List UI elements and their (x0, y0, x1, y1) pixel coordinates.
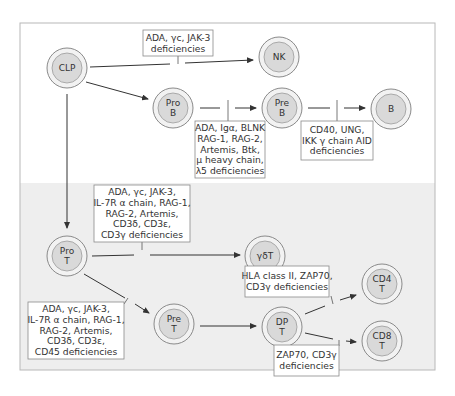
node-label: γδT (257, 251, 274, 261)
deficiency-text: λ5 deficiencies (196, 165, 265, 176)
node-pret: PreT (154, 304, 194, 344)
deficiency-text: deficiencies (151, 43, 206, 54)
block-label-prot-to-pret: ADA, γc, JAK-3,IL-7R α chain, RAG-1,RAG-… (27, 302, 124, 359)
deficiency-text: CD3γ deficiencies (101, 229, 183, 240)
deficiency-text: CD3δ, CD3ε, (113, 218, 171, 229)
deficiency-text: IL-7R α chain, RAG-1, (93, 197, 190, 208)
block-label-clp-to-nk: ADA, γc, JAK-3deficiencies (143, 30, 213, 56)
deficiency-text: IL-7R α chain, RAG-1, (27, 314, 124, 325)
node-label: T (278, 327, 285, 337)
node-label: T (378, 341, 385, 351)
node-clp: CLP (47, 48, 87, 88)
node-label: NK (273, 52, 287, 62)
deficiency-text: RAG-1, RAG-2, (197, 133, 263, 144)
node-prot: ProT (47, 236, 87, 276)
deficiency-text: RAG-2, Artemis, (106, 208, 179, 219)
deficiency-text: ADA, γc, JAK-3 (146, 32, 211, 43)
deficiency-text: deficiencies (279, 360, 334, 371)
node-nk: NK (259, 37, 299, 77)
node-label: CD4 (373, 274, 392, 284)
deficiency-text: CD3γ deficiencies (246, 281, 328, 292)
deficiency-text: deficiencies (310, 145, 365, 156)
node-label: B (170, 108, 176, 118)
node-label: Pro (166, 98, 181, 108)
deficiency-text: ADA, γc, JAK-3, (108, 186, 176, 197)
deficiency-text: HLA class II, ZAP70, (241, 270, 332, 281)
node-label: Pro (60, 246, 75, 256)
deficiency-text: CD40, UNG, (310, 124, 365, 135)
node-label: T (63, 256, 70, 266)
block-label-prot-to-gdt: ADA, γc, JAK-3,IL-7R α chain, RAG-1,RAG-… (93, 185, 190, 242)
deficiency-text: μ heavy chain, (196, 154, 264, 165)
deficiency-text: Artemis, Btk, (200, 144, 260, 155)
node-label: T (378, 284, 385, 294)
deficiency-text: ADA, Igα, BLNK (195, 122, 266, 133)
immunodeficiency-lineage-diagram: CLPNKProBPreBBProTγδTPreTDPTCD4TCD8T ADA… (0, 0, 455, 396)
node-label: Pre (167, 314, 182, 324)
block-label-dpt-to-cd8t: ZAP70, CD3γdeficiencies (274, 345, 339, 376)
node-label: B (388, 104, 394, 114)
deficiency-text: IKK γ chain AID (302, 135, 372, 146)
block-label-preb-to-b: CD40, UNG,IKK γ chain AIDdeficiencies (301, 121, 373, 160)
deficiency-text: ADA, γc, JAK-3, (42, 303, 110, 314)
node-cd8t: CD8T (362, 321, 402, 361)
node-preb: PreB (262, 88, 302, 128)
block-label-prob-to-preb: ADA, Igα, BLNKRAG-1, RAG-2,Artemis, Btk,… (195, 121, 266, 178)
deficiency-text: RAG-2, Artemis, (40, 325, 113, 336)
node-b: B (371, 89, 411, 129)
deficiency-text: CD3δ, CD3ε, (47, 335, 105, 346)
node-label: CD8 (373, 331, 392, 341)
node-label: Pre (275, 98, 290, 108)
node-label: B (279, 108, 285, 118)
deficiency-text: CD45 deficiencies (35, 346, 118, 357)
block-label-dpt-to-cd4t: HLA class II, ZAP70,CD3γ deficiencies (241, 266, 332, 297)
node-label: DP (276, 317, 289, 327)
deficiency-text: ZAP70, CD3γ (276, 349, 337, 360)
node-dpt: DPT (262, 307, 302, 347)
node-prob: ProB (153, 88, 193, 128)
node-label: T (170, 324, 177, 334)
node-label: CLP (59, 63, 76, 73)
node-cd4t: CD4T (362, 264, 402, 304)
